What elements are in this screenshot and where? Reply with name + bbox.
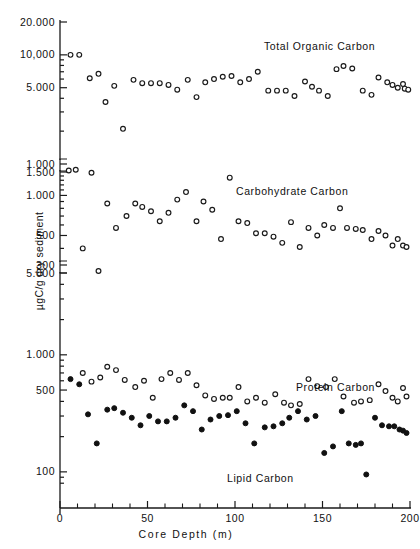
data-point [220,395,225,400]
x-axis-tick-label: 50 [141,512,154,524]
series-label-carbohydrate-carbon: Carbohydrate Carbon [236,185,348,197]
data-point [105,364,110,369]
data-point [369,237,374,242]
x-axis-tick-label: 200 [400,512,419,524]
data-point [353,227,358,232]
data-point [262,425,267,430]
data-point [350,66,355,71]
data-point [140,205,145,210]
data-point [297,245,302,250]
data-point [220,74,225,79]
scatter-plot-canvas: 20.00010,0005.0001.0001.5001.0005003005.… [0,0,420,549]
data-point [229,74,234,79]
y-axis-tick-label: 20.000 [20,16,55,28]
data-point [98,375,103,380]
data-point [364,472,369,477]
data-point [203,80,208,85]
data-point [210,207,215,212]
series-label-total-organic-carbon: Total Organic Carbon [264,40,375,52]
data-point [404,245,409,250]
data-point [322,450,327,455]
data-point [157,81,162,86]
data-point [392,424,397,429]
data-point [166,83,171,88]
data-point [282,400,287,405]
data-point [390,83,395,88]
series-carbohydrate-carbon [66,167,409,273]
data-point [234,409,239,414]
data-point [331,226,336,231]
data-point [273,392,278,397]
data-point [194,95,199,100]
data-point [280,240,285,245]
data-point [373,415,378,420]
data-point [157,219,162,224]
data-point [313,414,318,419]
data-point [236,219,241,224]
data-point [271,424,276,429]
data-point [367,398,372,403]
data-point [238,80,243,85]
data-point [331,444,336,449]
data-point [322,223,327,228]
data-point [147,414,152,419]
data-point [80,371,85,376]
data-point [266,88,271,93]
data-point [89,170,94,175]
y-axis-tick-label: 10,000 [20,48,55,60]
data-point [94,441,99,446]
data-point [289,220,294,225]
data-point [303,79,308,84]
data-point [315,233,320,238]
x-axis-tick-label: 150 [313,512,332,524]
data-point [376,75,381,80]
data-point [166,210,171,215]
data-point [306,226,311,231]
data-point [404,430,409,435]
data-point [175,197,180,202]
data-point [114,368,119,373]
data-point [184,190,189,195]
series-total-organic-carbon [68,52,411,131]
data-point [383,233,388,238]
data-point [245,221,250,226]
data-point [68,377,73,382]
series-label-protein-carbon: Protein Carbon [296,381,375,393]
data-point [341,394,346,399]
x-axis-title: Core Depth (m) [139,528,234,540]
data-point [149,209,154,214]
data-point [401,386,406,391]
data-point [262,231,267,236]
data-point [395,85,400,90]
data-point [86,412,91,417]
data-point [114,226,119,231]
data-point [194,383,199,388]
figure-container: 20.00010,0005.0001.0001.5001.0005003005.… [0,0,420,549]
data-point [227,175,232,180]
data-point [317,88,322,93]
data-point [360,88,365,93]
data-point [77,52,82,57]
data-point [346,441,351,446]
data-point [156,419,161,424]
data-point [173,415,178,420]
data-point [185,371,190,376]
data-point [310,84,315,89]
data-point [203,393,208,398]
data-point [122,378,127,383]
data-point [387,424,392,429]
data-point [175,87,180,92]
data-point [275,88,280,93]
series-label-lipid-carbon: Lipid Carbon [227,472,294,484]
data-point [140,81,145,86]
data-point [177,378,182,383]
data-point [66,168,71,173]
data-point [376,382,381,387]
data-point [159,377,164,382]
data-point [227,395,232,400]
data-point [131,77,136,82]
y-axis-tick-label: 1.000 [26,348,55,360]
data-point [297,402,302,407]
data-point [334,67,339,72]
data-point [105,407,110,412]
